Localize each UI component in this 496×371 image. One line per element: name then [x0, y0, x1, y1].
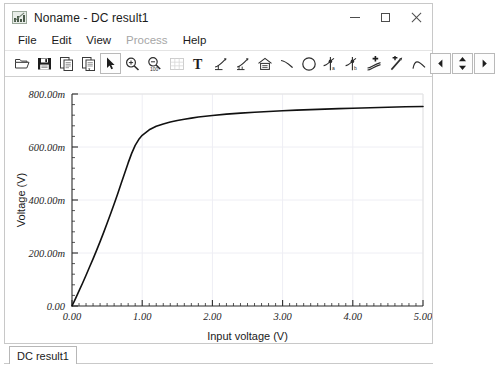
text-tool-button[interactable]: T: [188, 53, 209, 74]
y-tick-label: 200.00m: [29, 248, 66, 259]
add-trace-icon: [366, 56, 383, 72]
paste-icon: [81, 56, 97, 72]
minimize-icon: [350, 17, 360, 18]
toolbar-group-file: [12, 53, 56, 74]
pick-trace-button[interactable]: [386, 53, 407, 74]
title-bar: Noname - DC result1: [5, 4, 432, 31]
zoom-in-icon: [124, 56, 141, 72]
application-window: Noname - DC result1 File Edit View Proce…: [4, 3, 433, 344]
x-tick-label: 5.00: [414, 311, 432, 322]
toolbar-group-traces: [364, 53, 430, 74]
svg-text:b: b: [354, 65, 357, 71]
menu-item-view[interactable]: View: [79, 33, 119, 48]
cursor-b-icon: b: [344, 56, 361, 72]
cursor-a-button[interactable]: a: [320, 53, 341, 74]
toolbar-group-view: 100: [100, 53, 188, 74]
app-icon-diagonal: [13, 12, 26, 23]
menu-item-help[interactable]: Help: [176, 33, 215, 48]
svg-text:100: 100: [150, 66, 159, 72]
zoom-100-icon: 100: [146, 56, 163, 72]
cursor-a-icon: a: [322, 56, 339, 72]
dc-result-plot[interactable]: 0.001.002.003.004.005.000.00200.00m400.0…: [5, 78, 432, 343]
peak-button[interactable]: [408, 53, 429, 74]
copy-button[interactable]: [56, 53, 77, 74]
toolbar-group-stepper: [430, 53, 496, 74]
menu-item-file[interactable]: File: [11, 33, 45, 48]
text-tool-icon: T: [192, 56, 206, 71]
add-trace-button[interactable]: [364, 53, 385, 74]
paste-button[interactable]: [78, 53, 99, 74]
curve-marker-icon: [213, 56, 229, 72]
line-icon: [279, 57, 295, 71]
curve-marker-2-button[interactable]: [232, 53, 253, 74]
pointer-icon: [104, 56, 117, 71]
x-tick-label: 1.00: [133, 311, 152, 322]
y-tick-label: 800.00m: [29, 89, 66, 100]
step-prev-button[interactable]: [430, 53, 451, 74]
open-button[interactable]: [12, 53, 33, 74]
svg-text:a: a: [332, 65, 335, 71]
chart-app-icon: [12, 11, 27, 24]
y-tick-label: 600.00m: [29, 142, 66, 153]
copy-icon: [59, 56, 75, 72]
status-tab-dc-result[interactable]: DC result1: [9, 346, 77, 364]
menu-bar: File Edit View Process Help: [5, 31, 432, 50]
save-button[interactable]: [34, 53, 55, 74]
x-tick-label: 2.00: [203, 311, 222, 322]
maximize-icon: [381, 13, 390, 22]
line-button[interactable]: [276, 53, 297, 74]
step-next-icon: [480, 58, 489, 69]
x-tick-label: 3.00: [272, 311, 292, 322]
step-next-button[interactable]: [474, 53, 495, 74]
y-tick-label: 400.00m: [29, 195, 66, 206]
toolbar: 100 T: [5, 50, 432, 77]
zoom-100-button[interactable]: 100: [144, 53, 165, 74]
caption-buttons: [339, 4, 432, 31]
pick-trace-icon: [388, 56, 405, 72]
toolbar-group-draw: T: [188, 53, 320, 74]
x-tick-label: 4.00: [344, 311, 363, 322]
grid-button[interactable]: [166, 53, 187, 74]
menu-item-edit[interactable]: Edit: [45, 33, 80, 48]
zoom-in-button[interactable]: [122, 53, 143, 74]
close-icon: [411, 12, 422, 23]
axes-home-icon: [257, 57, 273, 71]
toolbar-group-cursors: a b: [320, 53, 364, 74]
y-tick-label: 0.00: [47, 301, 66, 312]
minimize-button[interactable]: [339, 4, 370, 31]
spinner-icon: [457, 55, 468, 72]
step-prev-icon: [436, 58, 445, 69]
status-bar: DC result1: [4, 344, 433, 367]
pointer-button[interactable]: [100, 53, 121, 74]
peak-icon: [411, 57, 427, 71]
menu-item-process: Process: [119, 33, 176, 48]
curve-marker-2-icon: [235, 56, 251, 72]
axes-button[interactable]: [254, 53, 275, 74]
cursor-b-button[interactable]: b: [342, 53, 363, 74]
plot-svg: 0.001.002.003.004.005.000.00200.00m400.0…: [5, 78, 432, 343]
x-tick-label: 0.00: [63, 311, 82, 322]
toolbar-group-clipboard: [56, 53, 100, 74]
y-axis-label: Voltage (V): [15, 173, 27, 227]
window-title: Noname - DC result1: [34, 11, 149, 25]
open-icon: [14, 56, 31, 71]
svg-text:T: T: [193, 57, 203, 72]
circle-icon: [301, 56, 317, 72]
close-button[interactable]: [401, 4, 432, 31]
plot-client-area: 0.001.002.003.004.005.000.00200.00m400.0…: [5, 78, 432, 343]
spinner-button[interactable]: [452, 53, 473, 74]
save-icon: [37, 56, 52, 71]
grid-icon: [169, 57, 185, 71]
circle-button[interactable]: [298, 53, 319, 74]
x-axis-label: Input voltage (V): [207, 330, 288, 342]
maximize-button[interactable]: [370, 4, 401, 31]
curve-marker-button[interactable]: [210, 53, 231, 74]
